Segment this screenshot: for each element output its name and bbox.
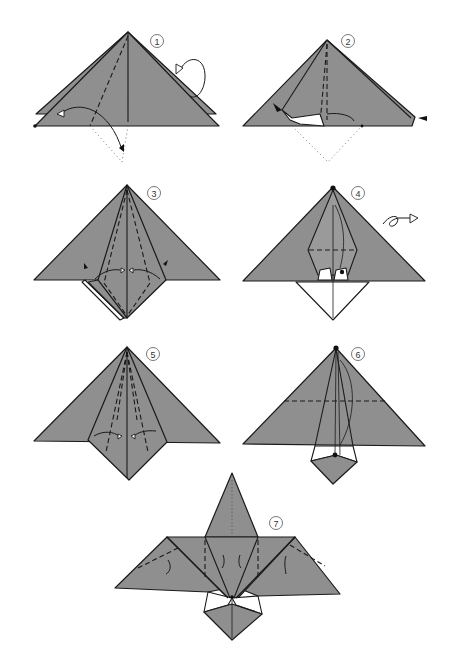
bottom-diamond bbox=[311, 455, 357, 484]
step-number-7: 7 bbox=[270, 517, 283, 530]
reference-dot-2 bbox=[333, 453, 338, 458]
step-number-5: 5 bbox=[147, 348, 160, 361]
svg-text:6: 6 bbox=[355, 350, 360, 360]
origami-diagram: 1 2 bbox=[0, 0, 449, 671]
arrowhead-icon bbox=[119, 144, 124, 152]
svg-text:3: 3 bbox=[151, 189, 156, 199]
white-pocket bbox=[334, 268, 348, 280]
step-5: 5 bbox=[34, 347, 220, 480]
step-1: 1 bbox=[33, 32, 219, 162]
step-number-1: 1 bbox=[151, 35, 164, 48]
step-2: 2 bbox=[243, 35, 427, 163]
step-number-2: 2 bbox=[342, 35, 355, 48]
svg-text:7: 7 bbox=[273, 519, 278, 529]
step-4: 4 bbox=[243, 185, 425, 320]
xray-outline bbox=[292, 126, 362, 162]
reference-dot bbox=[333, 345, 338, 350]
step-7: 7 bbox=[115, 473, 340, 640]
loop-arrowhead-icon bbox=[176, 64, 183, 74]
reference-dot-2 bbox=[340, 270, 344, 274]
reference-dot bbox=[361, 125, 364, 128]
xray-outline bbox=[90, 126, 128, 162]
reference-dot bbox=[330, 185, 335, 190]
svg-text:1: 1 bbox=[154, 37, 159, 47]
step-6: 6 bbox=[243, 345, 425, 484]
push-arrow-right-icon bbox=[418, 116, 427, 121]
turn-over-arrowhead-icon bbox=[410, 214, 418, 223]
svg-text:4: 4 bbox=[355, 189, 360, 199]
reference-dot bbox=[230, 595, 234, 599]
step-number-3: 3 bbox=[148, 187, 161, 200]
corner-dot bbox=[33, 124, 37, 128]
white-diamond bbox=[296, 282, 369, 320]
turn-over-arrow-icon bbox=[383, 216, 410, 226]
step-3: 3 bbox=[34, 185, 220, 320]
center-flap bbox=[308, 190, 357, 275]
svg-text:5: 5 bbox=[150, 350, 155, 360]
step-number-6: 6 bbox=[352, 348, 365, 361]
step-number-4: 4 bbox=[352, 187, 365, 200]
base-layer bbox=[243, 40, 415, 126]
head-flap bbox=[205, 473, 258, 537]
base-triangle bbox=[243, 348, 425, 446]
svg-text:2: 2 bbox=[345, 37, 350, 47]
white-pocket bbox=[318, 268, 332, 280]
